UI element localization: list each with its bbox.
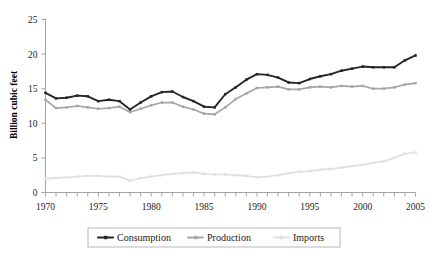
data-point-marker bbox=[361, 164, 364, 167]
data-point-marker bbox=[171, 173, 174, 176]
legend-swatch-marker bbox=[280, 236, 283, 239]
data-point-marker bbox=[372, 161, 375, 164]
data-point-marker bbox=[309, 170, 312, 173]
data-point-marker bbox=[55, 177, 58, 180]
data-point-marker bbox=[393, 157, 396, 160]
x-tick-label: 2005 bbox=[406, 202, 425, 212]
data-point-marker bbox=[256, 176, 259, 179]
y-axis-title-text: Billion cubic feet bbox=[9, 70, 19, 139]
data-point-marker bbox=[383, 87, 386, 90]
data-point-marker bbox=[65, 106, 68, 109]
data-point-marker bbox=[192, 108, 195, 111]
data-point-marker bbox=[150, 175, 153, 178]
data-point-marker bbox=[393, 66, 396, 69]
line-chart-figure: Billion cubic feet 0510152025 1970197519… bbox=[0, 0, 430, 254]
data-point-marker bbox=[108, 107, 111, 110]
y-tick-label: 25 bbox=[28, 15, 38, 25]
data-point-marker bbox=[161, 101, 164, 104]
data-point-marker bbox=[414, 151, 417, 154]
data-point-marker bbox=[298, 170, 301, 173]
data-point-marker bbox=[256, 87, 259, 90]
legend-item-imports[interactable]: Imports bbox=[274, 232, 324, 243]
data-point-marker bbox=[330, 73, 333, 76]
chart-axes bbox=[46, 19, 416, 193]
y-tick-label: 5 bbox=[33, 153, 38, 163]
data-point-marker bbox=[182, 96, 185, 99]
data-point-marker bbox=[414, 54, 417, 57]
data-point-marker bbox=[161, 91, 164, 94]
data-point-marker bbox=[404, 83, 407, 86]
data-point-marker bbox=[224, 93, 227, 96]
data-point-marker bbox=[277, 174, 280, 177]
data-point-marker bbox=[203, 173, 206, 176]
data-point-marker bbox=[245, 175, 248, 178]
chart-container: Billion cubic feet 0510152025 1970197519… bbox=[0, 0, 430, 254]
data-point-marker bbox=[87, 175, 90, 178]
x-tick-label: 2000 bbox=[353, 202, 372, 212]
x-tick-label: 1985 bbox=[195, 202, 214, 212]
data-point-marker bbox=[118, 100, 121, 103]
legend-item-consumption[interactable]: Consumption bbox=[98, 232, 171, 243]
data-point-marker bbox=[213, 106, 216, 109]
series-line bbox=[46, 152, 416, 180]
data-point-marker bbox=[76, 175, 79, 178]
y-axis-tick-labels: 0510152025 bbox=[28, 15, 38, 198]
data-point-marker bbox=[44, 92, 47, 95]
data-point-marker bbox=[298, 82, 301, 85]
data-point-marker bbox=[182, 105, 185, 108]
data-point-marker bbox=[277, 85, 280, 88]
data-point-marker bbox=[213, 173, 216, 176]
legend-label-text: Production bbox=[207, 232, 251, 243]
data-point-marker bbox=[76, 94, 79, 97]
data-point-marker bbox=[76, 105, 79, 108]
data-point-marker bbox=[203, 112, 206, 115]
data-point-marker bbox=[97, 100, 100, 103]
y-tick-label: 20 bbox=[28, 50, 38, 60]
data-point-marker bbox=[161, 174, 164, 177]
data-point-marker bbox=[65, 176, 68, 179]
x-tick-label: 1990 bbox=[247, 202, 266, 212]
x-axis-tick-labels: 19701975198019851990199520002005 bbox=[36, 202, 425, 212]
x-tick-label: 1970 bbox=[36, 202, 55, 212]
data-point-marker bbox=[319, 75, 322, 78]
legend-swatch-marker bbox=[104, 236, 107, 239]
data-point-marker bbox=[97, 175, 100, 178]
data-point-marker bbox=[235, 98, 238, 101]
data-point-marker bbox=[245, 92, 248, 95]
data-point-marker bbox=[139, 101, 142, 104]
legend-label-text: Consumption bbox=[117, 232, 171, 243]
legend-item-production[interactable]: Production bbox=[188, 232, 251, 243]
data-point-marker bbox=[65, 96, 68, 99]
data-point-marker bbox=[235, 174, 238, 177]
chart-legend: ConsumptionProductionImports bbox=[88, 228, 340, 247]
data-point-marker bbox=[224, 106, 227, 109]
series-production bbox=[44, 82, 417, 116]
data-point-marker bbox=[340, 85, 343, 88]
data-point-marker bbox=[372, 87, 375, 90]
data-point-marker bbox=[139, 177, 142, 180]
series-line bbox=[46, 55, 416, 109]
data-point-marker bbox=[319, 168, 322, 171]
data-point-marker bbox=[340, 69, 343, 72]
data-point-marker bbox=[129, 179, 132, 182]
data-point-marker bbox=[182, 172, 185, 175]
data-point-marker bbox=[97, 108, 100, 111]
legend-swatch-marker bbox=[194, 236, 197, 239]
data-point-marker bbox=[224, 173, 227, 176]
data-point-marker bbox=[309, 78, 312, 81]
data-point-marker bbox=[351, 165, 354, 168]
data-point-marker bbox=[171, 90, 174, 93]
data-point-marker bbox=[383, 160, 386, 163]
data-point-marker bbox=[192, 171, 195, 174]
data-point-marker bbox=[372, 66, 375, 69]
data-point-marker bbox=[44, 177, 47, 180]
data-point-marker bbox=[139, 108, 142, 111]
data-point-marker bbox=[330, 86, 333, 89]
data-series-group bbox=[44, 54, 417, 182]
data-point-marker bbox=[150, 95, 153, 98]
data-point-marker bbox=[129, 108, 132, 111]
series-imports bbox=[44, 151, 417, 182]
data-point-marker bbox=[256, 73, 259, 76]
data-point-marker bbox=[393, 86, 396, 89]
data-point-marker bbox=[404, 59, 407, 62]
